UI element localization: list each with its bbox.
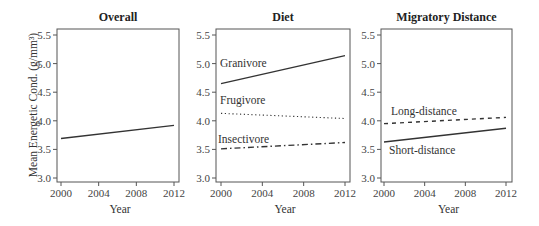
panel-migratory-distance: Migratory Distance3.03.54.04.55.05.52000… (361, 10, 517, 215)
y-tick-label: 3.0 (196, 172, 210, 184)
x-tick-label: 2008 (293, 187, 316, 199)
series-label-granivore: Granivore (220, 57, 267, 69)
y-tick-label: 4.0 (37, 115, 51, 127)
y-tick-label: 3.0 (37, 172, 51, 184)
series-line-short-distance (384, 128, 506, 142)
y-tick-label: 4.0 (196, 115, 210, 127)
panel-title: Overall (99, 10, 138, 24)
y-tick-label: 5.5 (361, 29, 375, 41)
x-tick-label: 2004 (88, 187, 111, 199)
y-tick-label: 5.0 (196, 58, 210, 70)
x-tick-label: 2012 (163, 187, 185, 199)
series-label-long-distance: Long-distance (391, 105, 457, 118)
y-tick-label: 5.0 (361, 58, 375, 70)
y-tick-label: 4.5 (37, 86, 51, 98)
x-tick-label: 2008 (454, 187, 477, 199)
series-line-overall (61, 125, 174, 138)
y-axis-label: Mean Energetic Cond. (g/mm³) (27, 33, 40, 178)
plot-frame (57, 29, 179, 182)
x-tick-label: 2004 (251, 187, 274, 199)
panel-overall: Overall3.03.54.04.55.05.5200020042008201… (37, 10, 185, 215)
panel-diet: Diet3.03.54.04.55.05.52000200420082012Ye… (196, 10, 356, 215)
y-tick-label: 5.0 (37, 58, 51, 70)
x-tick-label: 2000 (50, 187, 73, 199)
series-label-insectivore: Insectivore (218, 133, 269, 145)
series-line-long-distance (384, 117, 506, 123)
series-label-frugivore: Frugivore (220, 94, 265, 107)
panel-title: Migratory Distance (396, 10, 497, 24)
y-tick-label: 3.5 (361, 143, 375, 155)
x-tick-label: 2000 (373, 187, 396, 199)
x-tick-label: 2012 (495, 187, 517, 199)
x-axis-label: Year (274, 203, 295, 215)
y-tick-label: 4.0 (361, 115, 375, 127)
panel-title: Diet (272, 10, 293, 24)
y-tick-label: 4.5 (196, 86, 210, 98)
y-tick-label: 3.5 (196, 143, 210, 155)
y-tick-label: 4.5 (361, 86, 375, 98)
series-line-frugivore (221, 113, 345, 118)
x-tick-label: 2004 (414, 187, 437, 199)
x-axis-label: Year (109, 203, 130, 215)
figure: Mean Energetic Cond. (g/mm³) Overall3.03… (0, 0, 539, 226)
x-tick-label: 2012 (334, 187, 356, 199)
x-tick-label: 2000 (210, 187, 233, 199)
series-label-short-distance: Short-distance (389, 144, 455, 156)
x-axis-label: Year (438, 203, 459, 215)
y-tick-label: 3.0 (361, 172, 375, 184)
x-tick-label: 2008 (125, 187, 148, 199)
y-tick-label: 3.5 (37, 143, 51, 155)
y-tick-label: 5.5 (37, 29, 51, 41)
y-tick-label: 5.5 (196, 29, 210, 41)
